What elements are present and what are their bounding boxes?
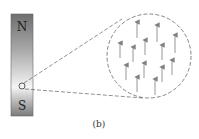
- figure-caption: (b): [93, 119, 106, 129]
- bar-magnet: N S: [11, 14, 33, 116]
- north-pole-label: N: [17, 20, 28, 34]
- diagram-svg: N S (b): [0, 0, 199, 139]
- south-pole-label: S: [18, 99, 26, 113]
- magnet-domain-diagram: N S (b): [0, 0, 199, 139]
